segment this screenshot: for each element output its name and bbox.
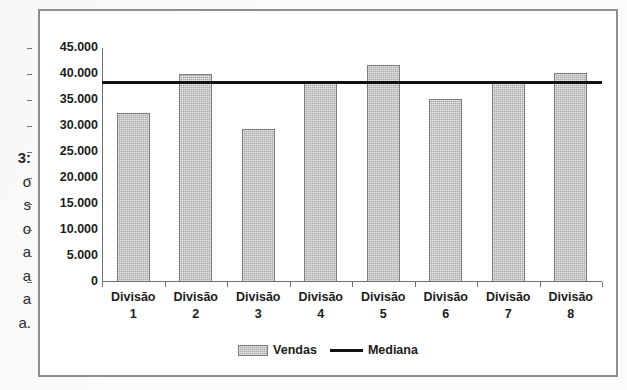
x-axis-tick — [227, 282, 228, 287]
y-axis-tick-label: 45.000 — [32, 40, 98, 54]
y-axis-labels: 45.00040.00035.00030.00025.00020.00015.0… — [32, 48, 98, 282]
y-axis-tick-label: 35.000 — [32, 92, 98, 106]
x-axis-tick — [477, 282, 478, 287]
bar — [429, 99, 462, 282]
legend-label-mediana: Mediana — [368, 343, 418, 357]
x-axis-tick — [290, 282, 291, 287]
x-axis-tick — [602, 282, 603, 287]
x-axis-tick — [540, 282, 541, 287]
bar — [242, 129, 275, 282]
bar — [492, 83, 525, 282]
x-axis-tick — [352, 282, 353, 287]
caption-fragment-line: a — [23, 287, 34, 311]
scanned-page: 3:osoaaaa. 45.00040.00035.00030.00025.00… — [0, 0, 627, 390]
bar — [117, 113, 150, 282]
x-axis-category-label: Divisão6 — [415, 289, 478, 335]
x-axis-category-label: Divisão5 — [352, 289, 415, 335]
x-axis-category-label: Divisão4 — [290, 289, 353, 335]
bar — [304, 83, 337, 282]
y-axis-tick-label: 40.000 — [32, 66, 98, 80]
legend-entry-vendas: Vendas — [238, 343, 317, 357]
legend-line-swatch-icon — [330, 349, 363, 352]
x-axis-category-label: Divisão1 — [102, 289, 165, 335]
bar — [367, 65, 400, 282]
chart-frame: 45.00040.00035.00030.00025.00020.00015.0… — [38, 9, 618, 377]
caption-fragment-line: a. — [18, 311, 34, 335]
legend-bar-swatch-icon — [238, 345, 268, 356]
y-axis-tick-label: 0 — [32, 274, 98, 288]
x-axis-category-label: Divisão3 — [227, 289, 290, 335]
chart-plot-container: 45.00040.00035.00030.00025.00020.00015.0… — [40, 11, 616, 375]
clipped-caption-text: 3:osoaaaa. — [0, 146, 34, 334]
x-axis-tick — [165, 282, 166, 287]
x-axis-tick — [415, 282, 416, 287]
bar — [554, 73, 587, 282]
median-line-mediana — [102, 81, 602, 84]
x-axis-labels: Divisão1Divisão2Divisão3Divisão4Divisão5… — [102, 289, 602, 335]
y-axis-tick-label: 5.000 — [32, 248, 98, 262]
y-axis-tick-label: 15.000 — [32, 196, 98, 210]
y-axis-tick-label: 30.000 — [32, 118, 98, 132]
chart-legend: Vendas Mediana — [40, 343, 616, 357]
plot-area — [102, 48, 602, 282]
y-axis-tick-label: 10.000 — [32, 222, 98, 236]
legend-entry-mediana: Mediana — [330, 343, 418, 357]
x-axis-tick — [102, 282, 103, 287]
y-axis-tick-label: 20.000 — [32, 170, 98, 184]
x-axis-category-label: Divisão2 — [165, 289, 228, 335]
bar — [179, 74, 212, 282]
y-axis-tick-label: 25.000 — [32, 144, 98, 158]
x-axis-category-label: Divisão7 — [477, 289, 540, 335]
legend-label-vendas: Vendas — [273, 343, 317, 357]
x-axis-category-label: Divisão8 — [540, 289, 603, 335]
